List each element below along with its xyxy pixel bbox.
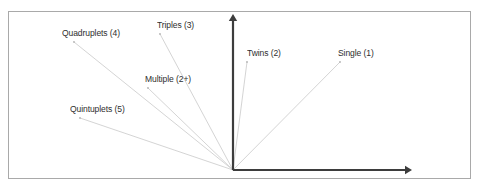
ray-label: Multiple (2+) bbox=[145, 74, 191, 84]
ray-endpoint-dot bbox=[147, 87, 149, 89]
ray-endpoint-dot bbox=[246, 61, 248, 63]
ray-line bbox=[233, 62, 340, 170]
ray-label: Quintuplets (5) bbox=[70, 104, 125, 114]
ray-line bbox=[80, 118, 233, 170]
axes-group bbox=[229, 14, 412, 174]
ray-endpoint-dot bbox=[73, 41, 75, 43]
ray-diagram-figure: Single (1)Twins (2)Triples (3)Multiple (… bbox=[0, 0, 481, 191]
x-axis-arrowhead-icon bbox=[405, 166, 412, 174]
ray-endpoint-dot bbox=[79, 117, 81, 119]
ray-endpoint-dot bbox=[339, 61, 341, 63]
y-axis-arrowhead-icon bbox=[229, 14, 237, 21]
ray-label: Single (1) bbox=[338, 48, 374, 58]
ray-label: Triples (3) bbox=[157, 20, 194, 30]
ray-endpoint-dot bbox=[159, 33, 161, 35]
ray-lines-group bbox=[74, 34, 340, 170]
ray-line bbox=[160, 34, 233, 170]
ray-label: Twins (2) bbox=[247, 48, 281, 58]
ray-line bbox=[148, 88, 233, 170]
ray-label: Quadruplets (4) bbox=[62, 28, 120, 38]
ray-line bbox=[233, 62, 247, 170]
